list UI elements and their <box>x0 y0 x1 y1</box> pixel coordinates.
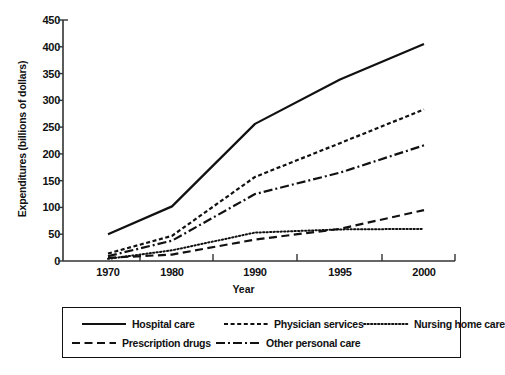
legend-item-label: Nursing home care <box>414 318 505 330</box>
legend-line-swatch <box>363 319 409 329</box>
legend-line-swatch <box>71 338 117 348</box>
legend-item-label: Other personal care <box>266 337 360 349</box>
legend-item: Other personal care <box>215 335 360 351</box>
series-line <box>108 229 424 259</box>
legend-item-label: Prescription drugs <box>122 337 211 349</box>
legend-item: Prescription drugs <box>71 335 211 351</box>
legend-item-label: Physician services <box>274 318 363 330</box>
chart-legend: Hospital carePhysician servicesNursing h… <box>62 307 461 358</box>
series-line <box>108 210 424 258</box>
legend-line-swatch <box>81 319 127 329</box>
legend-item-label: Hospital care <box>132 318 195 330</box>
legend-line-swatch <box>215 338 261 348</box>
legend-item: Physician services <box>223 316 363 332</box>
legend-line-swatch <box>223 319 269 329</box>
series-line <box>108 44 424 234</box>
legend-item: Hospital care <box>81 316 195 332</box>
legend-item: Nursing home care <box>363 316 505 332</box>
